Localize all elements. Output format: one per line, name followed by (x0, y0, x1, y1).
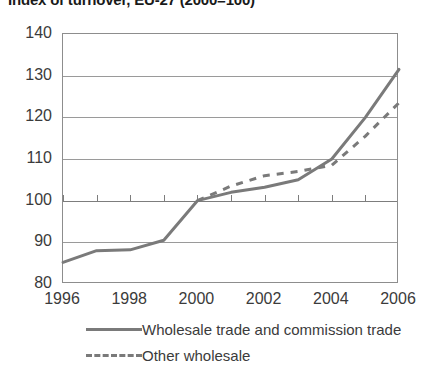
chart-figure: Index of turnover, EU-27 (2000=100) 140 … (0, 0, 429, 389)
plot-area (62, 33, 398, 283)
legend-label: Other wholesale (142, 347, 250, 364)
chart-legend: Wholesale trade and commission trade Oth… (86, 316, 426, 368)
legend-label: Wholesale trade and commission trade (142, 321, 401, 338)
xtick-label-2002: 2002 (246, 290, 282, 308)
xtick-label-2004: 2004 (313, 290, 349, 308)
series-line-other-wholesale (197, 103, 399, 201)
ytick-label-130: 130 (0, 66, 52, 84)
ytick-label-100: 100 (0, 191, 52, 209)
legend-key-dashed-line-icon (86, 349, 142, 361)
legend-item-wholesale-trade-and-commission-trade: Wholesale trade and commission trade (86, 316, 426, 342)
xtick-label-1996: 1996 (44, 290, 80, 308)
xtick-label-2006: 2006 (380, 290, 416, 308)
legend-key-solid-line-icon (86, 323, 142, 335)
xtick-label-1998: 1998 (111, 290, 147, 308)
chart-title: Index of turnover, EU-27 (2000=100) (8, 0, 428, 8)
legend-item-other-wholesale: Other wholesale (86, 342, 426, 368)
ytick-label-140: 140 (0, 24, 52, 42)
series-lines (63, 34, 399, 284)
ytick-label-120: 120 (0, 107, 52, 125)
ytick-label-90: 90 (0, 232, 52, 250)
ytick-label-110: 110 (0, 149, 52, 167)
series-line-wholesale-trade-and-commission-trade (63, 69, 399, 262)
xtick-label-2000: 2000 (179, 290, 215, 308)
